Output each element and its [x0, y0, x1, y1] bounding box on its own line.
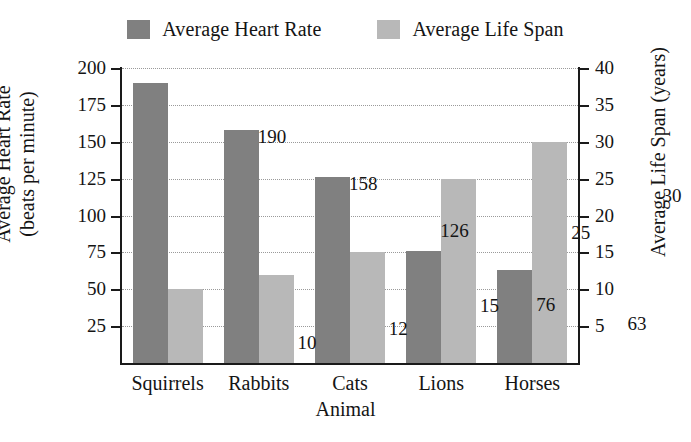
bar-value-label: 15 — [458, 296, 521, 315]
y-axis-right-tick-label: 25 — [595, 169, 635, 188]
y-axis-left-tick — [111, 216, 121, 218]
y-axis-left-title-line1: Average Heart Rate — [0, 85, 14, 242]
gridline — [122, 216, 578, 217]
legend-entry-life-span: Average Life Span — [377, 19, 563, 39]
y-axis-right-title: Average Life Span (years) — [646, 2, 670, 302]
y-axis-left-tick-label: 200 — [54, 58, 106, 77]
y-axis-right-tick — [579, 68, 589, 70]
y-axis-left-tick — [111, 179, 121, 181]
y-axis-right-tick — [579, 179, 589, 181]
bar — [441, 179, 476, 363]
bar-value-label: 12 — [367, 319, 430, 338]
y-axis-right-tick-label: 35 — [595, 95, 635, 114]
y-axis-left-tick-label: 150 — [54, 132, 106, 151]
bar-value-label: 10 — [276, 333, 339, 352]
y-axis-left-tick-label: 75 — [54, 242, 106, 261]
y-axis-right-tick — [579, 142, 589, 144]
legend-swatch-icon-life-span — [377, 20, 400, 39]
legend-label-life-span: Average Life Span — [412, 19, 563, 39]
x-axis-line — [120, 363, 580, 365]
y-axis-right-tick-label: 40 — [595, 58, 635, 77]
legend-entry-heart-rate: Average Heart Rate — [127, 19, 321, 39]
y-axis-left-tick-label: 175 — [54, 95, 106, 114]
plot-area: 19010158121261576256330 — [122, 68, 578, 363]
y-axis-right-tick-label: 10 — [595, 279, 635, 298]
bar-chart: Average Heart Rate Average Life Span 190… — [0, 0, 691, 442]
y-axis-right-tick — [579, 216, 589, 218]
bar — [532, 142, 567, 363]
bar — [406, 251, 441, 363]
bar-value-label: 190 — [241, 127, 304, 146]
bar — [497, 270, 532, 363]
gridline — [122, 142, 578, 143]
y-axis-right-tick — [579, 289, 589, 291]
y-axis-left-tick-label: 50 — [54, 279, 106, 298]
y-axis-right-tick — [579, 105, 589, 107]
y-axis-left-title: Average Heart Rate (beats per minute) — [0, 14, 39, 314]
y-axis-right-tick — [579, 326, 589, 328]
bar — [168, 289, 203, 363]
y-axis-left-tick — [111, 252, 121, 254]
y-axis-right-tick — [579, 252, 589, 254]
y-axis-right-tick-label: 30 — [595, 132, 635, 151]
legend-swatch-icon-heart-rate — [127, 20, 150, 39]
y-axis-left-tick — [111, 326, 121, 328]
y-axis-left-tick — [111, 105, 121, 107]
chart-legend: Average Heart Rate Average Life Span — [0, 14, 691, 44]
bar-value-label: 76 — [514, 295, 577, 314]
gridline — [122, 105, 578, 106]
y-axis-right-tick-label: 5 — [595, 316, 635, 335]
bar-value-label: 126 — [423, 221, 486, 240]
bar — [350, 252, 385, 363]
bar-value-label: 158 — [332, 174, 395, 193]
y-axis-left-tick-label: 25 — [54, 316, 106, 335]
y-axis-left-title-line2: (beats per minute) — [15, 14, 39, 314]
legend-label-heart-rate: Average Heart Rate — [162, 19, 321, 39]
y-axis-left-tick — [111, 142, 121, 144]
y-axis-left-tick — [111, 68, 121, 70]
y-axis-right-tick-label: 20 — [595, 206, 635, 225]
bar — [133, 83, 168, 363]
x-axis-category-label: Horses — [477, 372, 588, 394]
y-axis-left-tick-label: 100 — [54, 206, 106, 225]
bar — [224, 130, 259, 363]
x-axis-title: Animal — [0, 398, 691, 420]
y-axis-left-tick — [111, 289, 121, 291]
y-axis-right-tick-label: 15 — [595, 242, 635, 261]
gridline — [122, 68, 578, 69]
y-axis-left-tick-label: 125 — [54, 169, 106, 188]
